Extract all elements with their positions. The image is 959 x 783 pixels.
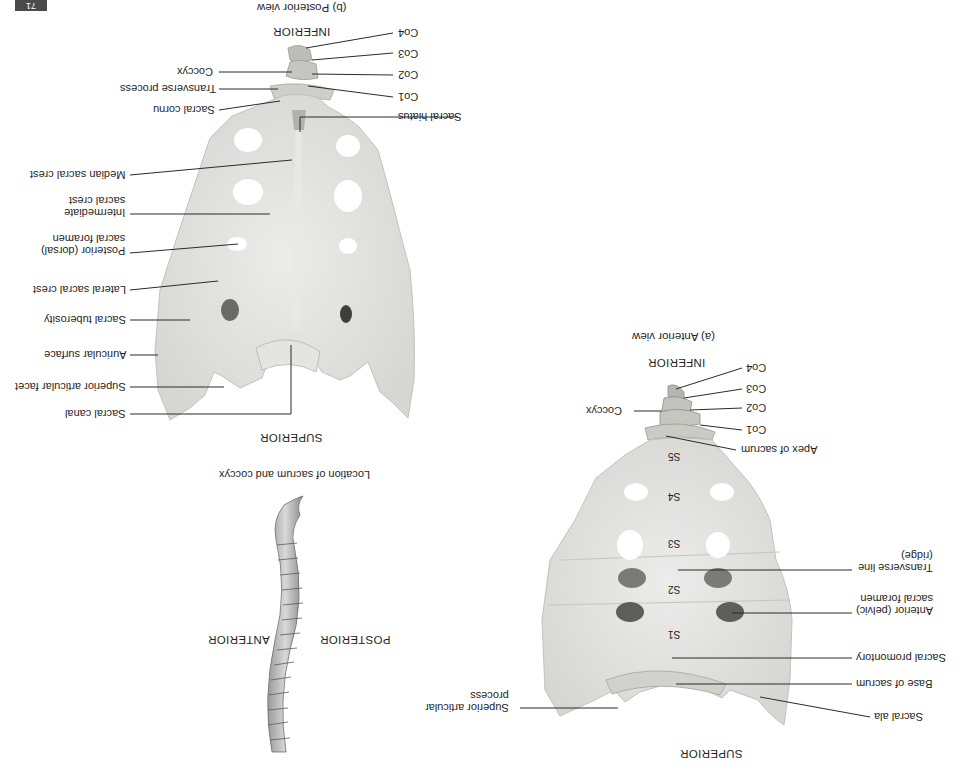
label-co1-posterior: Co1	[398, 91, 418, 103]
label-co3-posterior: Co3	[398, 48, 418, 60]
label-auricular-surface: Auricular surface	[44, 349, 127, 361]
posterior-view-title: (b) Posterior view	[257, 2, 346, 14]
label-sacral-hiatus: Sacral hiatus	[398, 111, 462, 123]
label-intermediate-sacral-crest: Intermediate sacral crest	[64, 195, 125, 219]
label-sacral-canal: Sacral canal	[65, 408, 126, 420]
posterior-orientation-inferior: INFERIOR	[273, 26, 330, 38]
label-co2-anterior: Co2	[746, 402, 766, 414]
label-sacral-promontory: Sacral promontory	[856, 652, 946, 664]
location-inset-title: Location of sacrum and coccyx	[219, 469, 370, 481]
label-apex-of-sacrum: Apex of sacrum	[741, 444, 817, 456]
segment-label-s4: S4	[668, 490, 680, 502]
label-sacral-tuberosity: Sacral tuberosity	[44, 314, 126, 326]
label-co4-anterior: Co4	[746, 362, 766, 374]
label-superior-articular-facet: Superior articular facet	[15, 381, 126, 393]
anterior-view-title: (a) Anterior view	[632, 331, 715, 343]
anterior-orientation-inferior: INFERIOR	[648, 357, 705, 369]
label-anterior-sacral-foramen: Anterior (pelvic) sacral foramen	[856, 593, 933, 617]
segment-label-s3: S3	[668, 537, 680, 549]
segment-label-s1: S1	[668, 628, 680, 640]
label-coccyx-posterior: Coccyx	[177, 66, 213, 78]
label-co1-anterior: Co1	[746, 424, 766, 436]
label-posterior-sacral-foramen: Posterior (dorsal) sacral foramen	[41, 233, 125, 257]
label-sacral-ala: Sacral ala	[874, 711, 923, 723]
label-median-sacral-crest: Median sacral crest	[30, 169, 125, 181]
anterior-orientation-superior: SUPERIOR	[680, 748, 742, 760]
label-transverse-process: Transverse process	[120, 83, 216, 95]
label-coccyx-anterior: Coccyx	[586, 405, 622, 417]
location-anterior-label: ANTERIOR	[208, 634, 270, 646]
segment-label-s2: S2	[668, 583, 680, 595]
posterior-orientation-superior: SUPERIOR	[260, 432, 322, 444]
label-base-of-sacrum: Base of sacrum	[856, 678, 932, 690]
label-sacral-cornu: Sacral cornu	[153, 104, 215, 116]
label-co2-posterior: Co2	[398, 69, 418, 81]
spine-illustration	[268, 496, 303, 752]
label-co3-anterior: Co3	[746, 383, 766, 395]
diagram-artwork	[0, 0, 959, 783]
segment-label-s5: S5	[668, 450, 680, 462]
label-superior-articular-process: Superior articular process	[425, 690, 509, 714]
posterior-sacrum-illustration	[155, 45, 415, 420]
location-posterior-label: POSTERIOR	[320, 634, 390, 646]
label-co4-posterior: Co4	[398, 27, 418, 39]
label-lateral-sacral-crest: Lateral sacral crest	[33, 284, 126, 296]
anatomy-figure-page: 71	[0, 0, 959, 783]
label-transverse-line: Transverse line (ridge)	[858, 550, 933, 574]
